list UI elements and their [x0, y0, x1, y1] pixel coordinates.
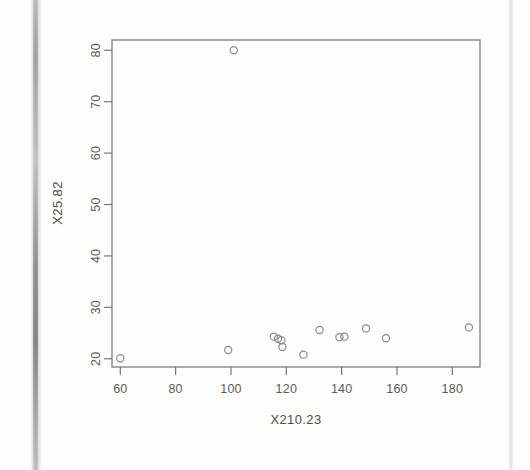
y-tick-label: 20 — [89, 352, 103, 366]
x-tick-label: 160 — [386, 382, 407, 396]
data-point-marker — [225, 346, 232, 353]
scatter-plot-canvas: 6080100120140160180 20304050607080 X210.… — [0, 0, 530, 470]
data-point-marker — [316, 326, 323, 333]
data-point-marker — [341, 333, 348, 340]
data-points-layer — [117, 47, 473, 362]
y-tick-label: 80 — [89, 43, 103, 57]
data-point-marker — [279, 343, 286, 350]
x-tick-label: 80 — [168, 382, 182, 396]
data-point-marker — [300, 351, 307, 358]
data-point-marker — [362, 325, 369, 332]
data-point-marker — [270, 333, 277, 340]
x-tick-label: 140 — [331, 382, 352, 396]
data-point-marker — [230, 47, 237, 54]
y-tick-label: 50 — [89, 197, 103, 211]
y-tick-label: 30 — [89, 300, 103, 314]
plot-frame-box — [112, 40, 480, 367]
data-point-marker — [117, 355, 124, 362]
x-axis-title: X210.23 — [270, 412, 321, 427]
y-tick-label: 40 — [89, 249, 103, 263]
data-point-marker — [465, 324, 472, 331]
y-tick-label: 60 — [89, 146, 103, 160]
figure-root: 6080100120140160180 20304050607080 X210.… — [0, 0, 530, 470]
y-axis-title: X25.82 — [50, 181, 65, 225]
y-axis-ticks: 20304050607080 — [89, 43, 112, 366]
x-tick-label: 60 — [113, 382, 127, 396]
x-tick-label: 120 — [276, 382, 297, 396]
data-point-marker — [382, 335, 389, 342]
x-axis-ticks: 6080100120140160180 — [113, 367, 463, 396]
x-tick-label: 180 — [442, 382, 463, 396]
x-tick-label: 100 — [220, 382, 241, 396]
y-tick-label: 70 — [89, 95, 103, 109]
